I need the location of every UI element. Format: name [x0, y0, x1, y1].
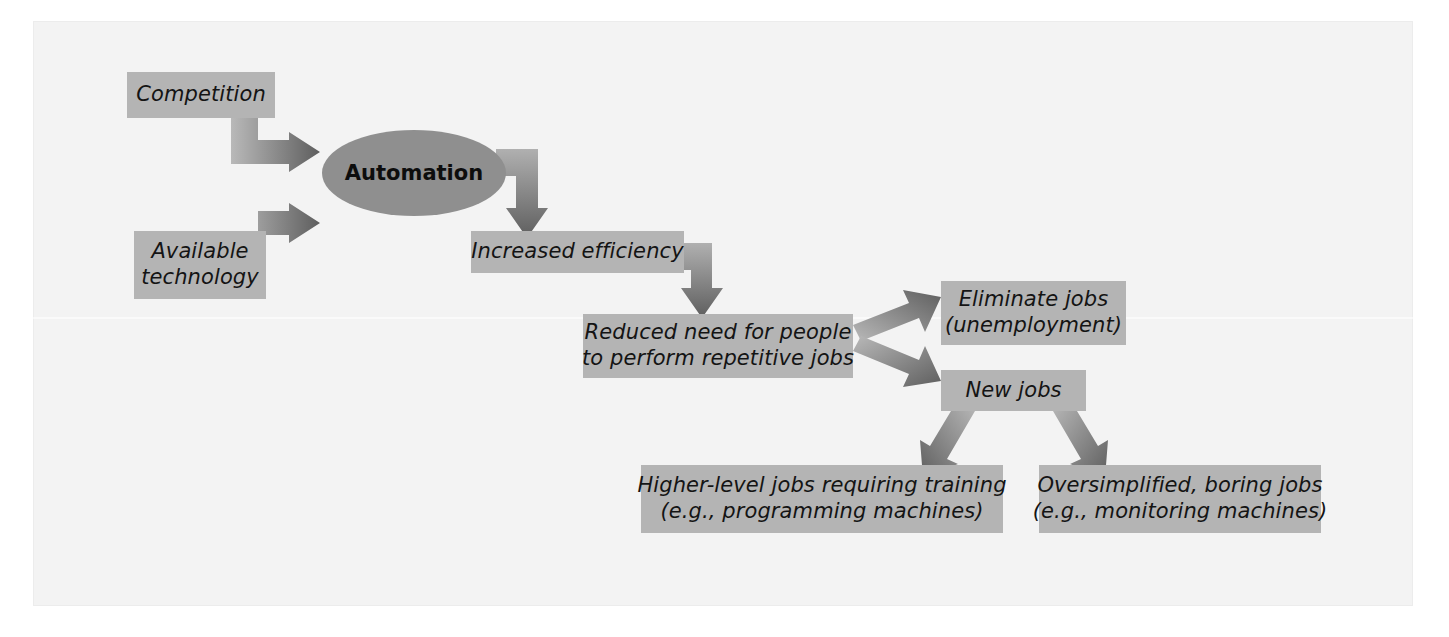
node-oversimplified-jobs[interactable]: Oversimplified, boring jobs(e.g., monito… [1039, 465, 1321, 533]
node-label-reduced-need: Reduced need for peopleto perform repeti… [572, 320, 864, 371]
node-label-line: (e.g., programming machines) [637, 499, 1006, 525]
node-label-line: New jobs [965, 378, 1061, 404]
arrow-competition-to-automation [231, 118, 320, 172]
node-available-technology[interactable]: Availabletechnology [134, 231, 266, 299]
node-label-oversimplified-jobs: Oversimplified, boring jobs(e.g., monito… [1023, 473, 1338, 524]
arrow-reduced-need-to-eliminate-jobs [853, 290, 941, 341]
diagram-canvas: CompetitionAvailabletechnologyAutomation… [0, 0, 1449, 637]
node-label-line: Oversimplified, boring jobs [1033, 473, 1328, 499]
node-label-line: (e.g., monitoring machines) [1033, 499, 1328, 525]
node-label-line: Available [141, 239, 259, 265]
node-label-line: (unemployment) [945, 313, 1122, 339]
node-competition[interactable]: Competition [127, 72, 275, 118]
arrow-reduced-need-to-new-jobs [853, 336, 941, 387]
node-label-line: Automation [345, 161, 483, 185]
arrow-automation-to-increased-efficiency [496, 149, 548, 238]
node-increased-efficiency[interactable]: Increased efficiency [471, 231, 684, 273]
node-label-line: Reduced need for people [582, 320, 854, 346]
node-automation[interactable]: Automation [322, 130, 506, 216]
node-label-increased-efficiency: Increased efficiency [461, 239, 693, 265]
node-label-line: technology [141, 265, 259, 291]
node-reduced-need[interactable]: Reduced need for peopleto perform repeti… [583, 314, 853, 378]
node-label-available-technology: Availabletechnology [131, 239, 269, 290]
node-label-eliminate-jobs: Eliminate jobs(unemployment) [935, 287, 1132, 338]
node-label-competition: Competition [126, 82, 276, 108]
node-label-line: Eliminate jobs [945, 287, 1122, 313]
node-label-higher-level-jobs: Higher-level jobs requiring training(e.g… [627, 473, 1016, 524]
node-higher-level-jobs[interactable]: Higher-level jobs requiring training(e.g… [641, 465, 1003, 533]
node-label-line: to perform repetitive jobs [582, 346, 854, 372]
node-label-line: Competition [136, 82, 266, 108]
node-label-new-jobs: New jobs [955, 378, 1071, 404]
node-label-automation: Automation [345, 161, 483, 185]
node-label-line: Higher-level jobs requiring training [637, 473, 1006, 499]
node-label-line: Increased efficiency [471, 239, 683, 265]
node-new-jobs[interactable]: New jobs [941, 370, 1086, 411]
node-eliminate-jobs[interactable]: Eliminate jobs(unemployment) [941, 281, 1126, 345]
